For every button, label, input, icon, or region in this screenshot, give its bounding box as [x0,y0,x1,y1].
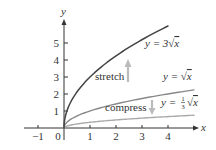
curve-one-third-sqrt-x [64,115,194,128]
stretch-label: stretch [95,70,125,82]
x-tick-label: 2 [113,130,119,142]
x-tick-label: 0 [55,130,61,142]
arrow-up-icon [125,59,132,82]
y-tick-label: 1 [54,105,60,117]
svg-text:y = √x: y = √x [162,70,192,82]
sqrt-transform-chart: x y −1 0 1 2 3 4 1 2 3 4 5 stretch [0,0,216,150]
svg-text:y = 3√x: y = 3√x [144,37,179,49]
arrow-down-icon [149,100,156,115]
y-tick-label: 4 [54,54,60,66]
equation-stretch: y = 3√x [144,37,179,49]
y-ticks: 1 2 3 4 5 [54,37,69,117]
y-tick-label: 2 [54,88,60,100]
annotation-stretch: stretch [95,59,132,82]
x-axis-arrowhead [193,126,199,131]
x-tick-label: 4 [165,130,171,142]
y-axis-arrowhead [62,19,67,25]
x-tick-label: 3 [139,130,145,142]
equation-base: y = √x [162,70,192,82]
svg-text:√x: √x [187,96,198,108]
y-tick-label: 5 [54,37,60,49]
annotation-compress: compress [105,100,156,115]
y-tick-label: 3 [54,71,60,83]
y-axis-label: y [60,5,66,17]
x-axis-label: x [200,121,206,133]
compress-label: compress [105,101,147,113]
x-tick-label: −1 [32,130,44,142]
svg-text:3: 3 [181,103,185,111]
equation-compress: y = 1 3 √x [160,95,198,111]
x-tick-label: 1 [87,130,93,142]
svg-text:y =: y = [160,96,176,108]
